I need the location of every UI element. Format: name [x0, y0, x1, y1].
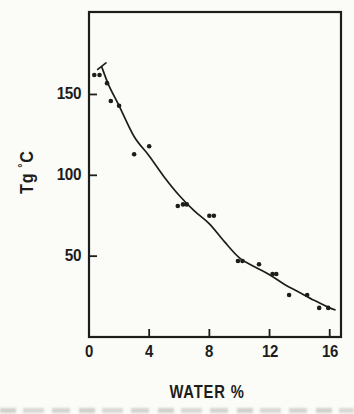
- scanned-figure: WATER % Tg°C 048121650100150: [0, 0, 354, 414]
- data-point: [274, 272, 279, 277]
- data-point: [257, 262, 262, 267]
- y-tick-label: 150: [57, 84, 81, 104]
- x-axis-title: WATER %: [169, 382, 244, 403]
- data-point: [212, 213, 217, 218]
- y-axis-title-unit: C: [17, 150, 37, 163]
- plot-area: [0, 0, 354, 414]
- degree-symbol: °: [16, 163, 30, 168]
- data-point: [175, 204, 180, 209]
- x-tick-label: 8: [205, 342, 213, 362]
- data-point: [317, 306, 322, 311]
- fitted-curve: [102, 67, 335, 310]
- y-axis-title: Tg°C: [16, 150, 38, 194]
- y-tick-label: 50: [65, 246, 81, 266]
- data-point: [147, 144, 152, 149]
- y-axis-title-main: Tg: [17, 172, 37, 194]
- plot-border: [89, 12, 341, 337]
- x-tick-label: 4: [145, 342, 153, 362]
- data-point: [132, 152, 137, 157]
- x-tick-label: 12: [262, 342, 278, 362]
- cropped-caption-smudge: [0, 408, 354, 413]
- data-point: [207, 213, 212, 218]
- x-tick-label: 16: [322, 342, 338, 362]
- x-tick-label: 0: [85, 342, 93, 362]
- data-point: [92, 73, 97, 78]
- data-point: [97, 73, 102, 78]
- y-tick-label: 100: [57, 165, 81, 185]
- data-point: [236, 259, 241, 264]
- data-point: [287, 293, 292, 298]
- data-point: [109, 99, 114, 104]
